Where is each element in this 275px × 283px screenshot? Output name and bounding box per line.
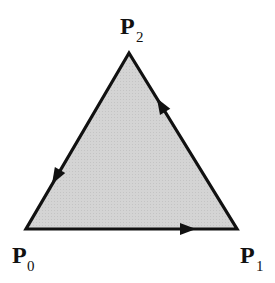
vertex-label-p2: P 2 [120, 13, 144, 45]
vertex-label-p0: P 0 [12, 242, 35, 274]
vertex-label-p1: P 1 [240, 242, 264, 274]
triangle-diagram: P 2 P 0 P 1 [0, 0, 275, 283]
label-p2-main: P [120, 13, 135, 39]
label-p0-main: P [12, 242, 27, 268]
label-p1-main: P [240, 242, 255, 268]
triangle-face [26, 53, 237, 229]
label-p1-sub: 1 [256, 258, 264, 274]
label-p2-sub: 2 [136, 29, 144, 45]
label-p0-sub: 0 [27, 258, 35, 274]
